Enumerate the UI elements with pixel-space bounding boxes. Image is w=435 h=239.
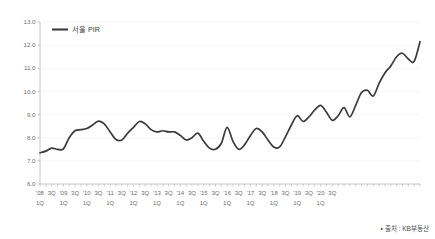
x-axis (40, 184, 420, 187)
x-tick-sublabel: 1Q (223, 200, 231, 206)
x-tick-sublabel: 1Q (106, 200, 114, 206)
x-tick-label: '16 (223, 190, 231, 196)
y-tick-labels: 13.012.011.010.09.08.07.06.0 (23, 18, 36, 187)
y-tick-label: 6.0 (27, 180, 36, 187)
x-tick-sublabel: 1Q (153, 200, 161, 206)
x-tick-labels: '081Q3Q'091Q3Q'101Q3Q'111Q3Q'121Q3Q'131Q… (36, 190, 337, 206)
x-tick-sublabel: 1Q (59, 200, 67, 206)
x-tick-sublabel: 1Q (317, 200, 325, 206)
x-tick-label: 3Q (235, 190, 243, 196)
x-tick-label: '17 (247, 190, 255, 196)
x-tick-sublabel: 1Q (83, 200, 91, 206)
x-tick-sublabel: 1Q (200, 200, 208, 206)
legend: 서울 PIR (52, 25, 100, 34)
x-tick-label: 3Q (118, 190, 126, 196)
x-tick-label: '14 (176, 190, 184, 196)
y-tick-label: 7.0 (27, 157, 36, 164)
x-tick-label: '12 (130, 190, 138, 196)
y-tick-label: 12.0 (23, 41, 36, 48)
x-tick-label: 3Q (282, 190, 290, 196)
y-tick-label: 11.0 (24, 64, 36, 71)
x-tick-label: 3Q (211, 190, 219, 196)
x-tick-sublabel: 1Q (176, 200, 184, 206)
x-tick-label: '09 (59, 190, 67, 196)
data-series-seoul-pir (40, 42, 420, 153)
x-tick-label: 3Q (328, 190, 336, 196)
pir-chart: 13.012.011.010.09.08.07.06.0 '081Q3Q'091… (0, 0, 435, 239)
x-tick-label: 3Q (165, 190, 173, 196)
gridlines (38, 22, 421, 184)
x-tick-label: '18 (270, 190, 278, 196)
y-tick-label: 13.0 (23, 18, 36, 25)
x-tick-sublabel: 1Q (246, 200, 254, 206)
x-tick-sublabel: 1Q (130, 200, 138, 206)
x-tick-label: '15 (200, 190, 208, 196)
x-tick-sublabel: 1Q (270, 200, 278, 206)
x-tick-label: '08 (36, 190, 44, 196)
source-note: • 출처 : KB부동산 (381, 223, 429, 233)
y-tick-label: 10.0 (23, 88, 36, 95)
x-tick-sublabel: 1Q (36, 200, 44, 206)
x-tick-label: 3Q (305, 190, 313, 196)
x-tick-label: 3Q (71, 190, 79, 196)
x-tick-label: '11 (106, 190, 114, 196)
x-tick-label: '10 (83, 190, 91, 196)
y-tick-label: 9.0 (27, 111, 36, 118)
chart-canvas: 13.012.011.010.09.08.07.06.0 '081Q3Q'091… (0, 0, 435, 239)
x-tick-sublabel: 1Q (293, 200, 301, 206)
x-tick-label: '20 (317, 190, 325, 196)
legend-label: 서울 PIR (72, 25, 100, 34)
x-tick-label: '19 (293, 190, 301, 196)
x-tick-label: 3Q (258, 190, 266, 196)
x-tick-label: '13 (153, 190, 161, 196)
x-tick-label: 3Q (94, 190, 102, 196)
y-tick-label: 8.0 (27, 134, 36, 141)
x-tick-label: 3Q (48, 190, 56, 196)
x-tick-label: 3Q (141, 190, 149, 196)
x-tick-label: 3Q (188, 190, 196, 196)
